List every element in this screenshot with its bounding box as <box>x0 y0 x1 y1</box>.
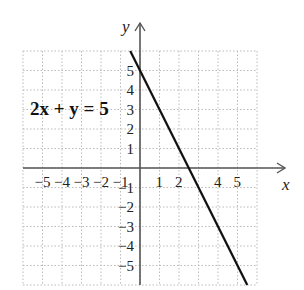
x-tick-label: 2 <box>175 174 183 190</box>
x-tick-label: 1 <box>156 174 164 190</box>
y-tick-label: 1 <box>127 141 135 157</box>
y-tick-label: 4 <box>127 82 135 98</box>
y-tick-label: −1 <box>118 180 134 196</box>
coordinate-plane: xy−5−4−3−2−1124554321−1−2−3−4−5 <box>0 0 304 290</box>
y-axis-label: y <box>120 17 130 36</box>
y-tick-label: −5 <box>118 258 134 274</box>
x-tick-label: −2 <box>93 174 109 190</box>
x-tick-label: −5 <box>35 174 51 190</box>
x-tick-label: 5 <box>234 174 242 190</box>
y-tick-label: 3 <box>127 102 135 118</box>
x-tick-label: 4 <box>214 174 222 190</box>
x-tick-label: −3 <box>74 174 90 190</box>
y-tick-label: −3 <box>118 219 134 235</box>
x-tick-label: −4 <box>54 174 70 190</box>
y-tick-label: −2 <box>118 199 134 215</box>
y-tick-label: 2 <box>127 121 135 137</box>
equation-label: 2x + y = 5 <box>30 98 109 120</box>
x-axis-label: x <box>281 175 290 194</box>
y-tick-label: 5 <box>127 63 135 79</box>
y-tick-label: −4 <box>118 238 134 254</box>
